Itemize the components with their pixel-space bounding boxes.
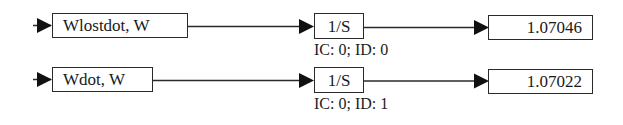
display-block-row-1[interactable]: 1.07046: [488, 15, 593, 40]
integrator-params-row-1: IC: 0; ID: 0: [314, 42, 388, 58]
display-value: 1.07046: [527, 19, 582, 36]
arrowhead-icon: [37, 72, 52, 87]
arrowhead-icon: [474, 20, 489, 35]
source-block-wdot[interactable]: Wdot, W: [52, 67, 153, 92]
display-block-row-2[interactable]: 1.07022: [488, 69, 593, 94]
arrowhead-icon: [299, 73, 314, 88]
source-block-label: Wdot, W: [63, 71, 125, 88]
arrowhead-icon: [37, 18, 52, 33]
integrator-block-row-1[interactable]: 1/S: [314, 13, 364, 39]
arrowhead-icon: [474, 74, 489, 89]
source-block-wlostdot[interactable]: Wlostdot, W: [52, 13, 188, 38]
arrowhead-icon: [299, 19, 314, 34]
integrator-params-row-2: IC: 0; ID: 1: [314, 96, 388, 112]
display-value: 1.07022: [527, 73, 582, 90]
integrator-block-label: 1/S: [328, 18, 351, 35]
integrator-block-row-2[interactable]: 1/S: [314, 67, 364, 93]
integrator-block-label: 1/S: [328, 72, 351, 89]
source-block-label: Wlostdot, W: [63, 17, 150, 34]
